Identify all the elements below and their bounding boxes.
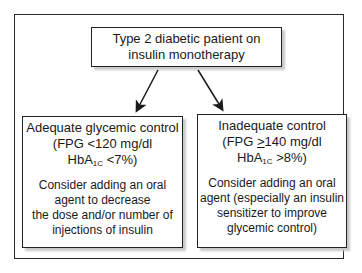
- inadequate-fpg: (FPG >140 mg/dl: [198, 134, 346, 150]
- inadequate-advice: Consider adding an oral agent (especiall…: [198, 176, 346, 236]
- arrow-to-adequate: [137, 70, 158, 110]
- adequate-control-node: Adequate glycemic control (FPG <120 mg/d…: [22, 116, 183, 248]
- adequate-title: Adequate glycemic control: [23, 120, 182, 136]
- adequate-fpg: (FPG <120 mg/dl: [23, 136, 182, 152]
- arrow-to-inadequate: [198, 70, 222, 109]
- adequate-advice: Consider adding an oral agent to decreas…: [23, 178, 182, 238]
- inadequate-control-node: Inadequate control (FPG >140 mg/dl HbA1C…: [197, 114, 347, 248]
- inadequate-title: Inadequate control: [198, 118, 346, 134]
- adequate-hba1c: HbA1C <7%): [23, 152, 182, 168]
- inadequate-hba1c: HbA1C >8%): [198, 150, 346, 166]
